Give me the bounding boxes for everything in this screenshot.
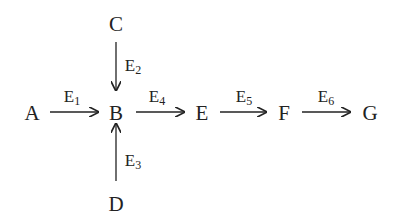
node-b: B bbox=[109, 103, 123, 124]
node-d: D bbox=[108, 194, 123, 215]
edge-label-e5: E5 bbox=[236, 88, 252, 107]
edge-label-e2: E2 bbox=[125, 57, 141, 76]
node-e: E bbox=[196, 103, 209, 124]
node-f: F bbox=[278, 103, 290, 124]
edge-label-e1: E1 bbox=[64, 88, 80, 107]
node-a: A bbox=[24, 103, 39, 124]
node-c: C bbox=[109, 14, 123, 35]
edge-label-e6: E6 bbox=[318, 88, 334, 107]
edge-label-e3: E3 bbox=[125, 152, 141, 171]
edge-label-e4: E4 bbox=[149, 88, 165, 107]
node-g: G bbox=[362, 103, 377, 124]
